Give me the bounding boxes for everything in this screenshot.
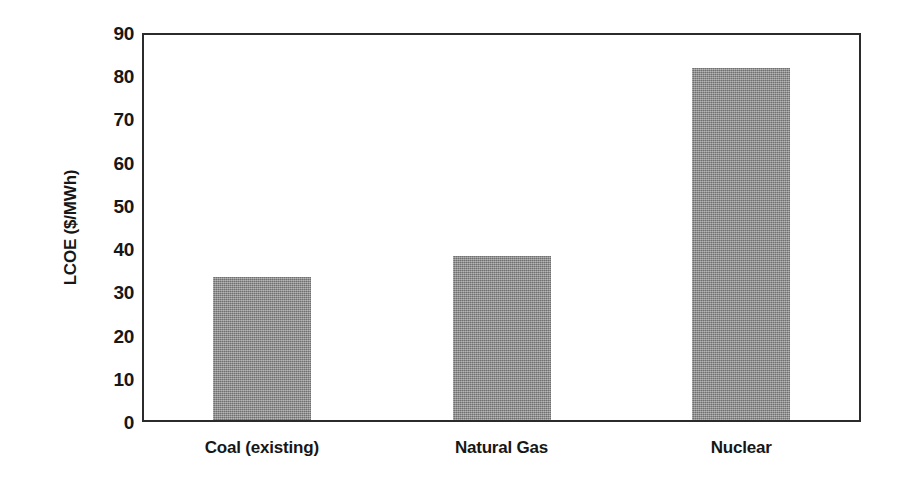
y-axis-tick-label: 90 xyxy=(88,24,134,43)
x-axis-tick-labels: Coal (existing)Natural GasNuclear xyxy=(142,432,861,472)
x-axis-tick-label: Natural Gas xyxy=(455,438,548,458)
bar-chart: LCOE ($/MWh) 0102030405060708090 Coal (e… xyxy=(0,0,904,483)
plot-area xyxy=(142,33,861,422)
y-axis-tick-label: 20 xyxy=(88,326,134,345)
y-axis-tick-label: 30 xyxy=(88,283,134,302)
y-axis-tick-label: 0 xyxy=(88,413,134,432)
y-axis-tick-labels: 0102030405060708090 xyxy=(88,33,134,422)
bar xyxy=(692,68,790,420)
bar xyxy=(453,256,551,420)
y-axis-tick-label: 70 xyxy=(88,110,134,129)
bar xyxy=(213,277,311,420)
y-axis-title: LCOE ($/MWh) xyxy=(56,33,86,422)
y-axis-tick-label: 40 xyxy=(88,240,134,259)
y-axis-tick-label: 80 xyxy=(88,67,134,86)
x-axis-tick-label: Nuclear xyxy=(711,438,772,458)
y-axis-tick-label: 60 xyxy=(88,153,134,172)
x-axis-tick-label: Coal (existing) xyxy=(205,438,319,458)
y-axis-tick-label: 50 xyxy=(88,196,134,215)
y-axis-tick-label: 10 xyxy=(88,369,134,388)
